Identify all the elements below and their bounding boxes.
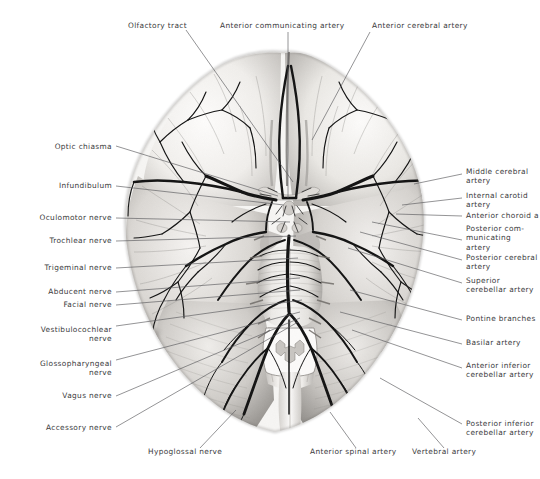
- label-line: Facial nerve: [0, 300, 112, 309]
- label-line: Abducent nerve: [0, 287, 112, 296]
- label-line: Infundibulum: [0, 181, 112, 190]
- label-anterior-cerebral-artery: Anterior cerebral artery: [372, 21, 468, 30]
- label-anterior-spinal-artery: Anterior spinal artery: [310, 447, 397, 456]
- label-line: artery: [466, 176, 528, 185]
- label-trigeminal-nerve: Trigeminal nerve: [0, 263, 112, 272]
- label-line: Oculomotor nerve: [0, 213, 112, 222]
- label-olfactory-tract: Olfactory tract: [128, 21, 187, 30]
- label-line: Anterior spinal artery: [310, 447, 397, 456]
- label-line: Basilar artery: [466, 338, 521, 347]
- label-line: Hypoglossal nerve: [148, 447, 222, 456]
- label-line: artery: [466, 262, 538, 271]
- label-infundibulum: Infundibulum: [0, 181, 112, 190]
- label-line: Anterior inferior: [466, 361, 534, 370]
- label-anterior-choroid-artery: Anterior choroid a: [466, 211, 539, 220]
- label-basilar-artery: Basilar artery: [466, 338, 521, 347]
- leader-hypoglossal-nerve: [200, 410, 236, 448]
- leader-vertebral-artery: [418, 418, 444, 448]
- label-accessory-nerve: Accessory nerve: [0, 423, 112, 432]
- label-line: Vertebral artery: [412, 447, 476, 456]
- label-line: Posterior inferior: [466, 419, 534, 428]
- brain-tissue: [110, 40, 451, 445]
- label-posterior-inferior-cerebellar-artery: Posterior inferiorcerebellar artery: [466, 419, 534, 438]
- label-line: Posterior cerebral: [466, 253, 538, 262]
- label-line: nerve: [0, 334, 112, 343]
- label-line: Optic chiasma: [0, 142, 112, 151]
- label-line: Anterior choroid a: [466, 211, 539, 220]
- label-anterior-inferior-cerebellar-artery: Anterior inferiorcerebellar artery: [466, 361, 534, 380]
- label-line: Anterior cerebral artery: [372, 21, 468, 30]
- leader-posterior-inferior-cerebellar-artery: [380, 378, 462, 424]
- label-glossopharyngeal-nerve: Glossopharyngealnerve: [0, 359, 112, 378]
- label-hypoglossal-nerve: Hypoglossal nerve: [148, 447, 222, 456]
- label-oculomotor-nerve: Oculomotor nerve: [0, 213, 112, 222]
- label-posterior-communicating-artery: Posterior com-municatingartery: [466, 224, 524, 252]
- label-line: cerebellar artery: [466, 428, 534, 437]
- label-line: Olfactory tract: [128, 21, 187, 30]
- label-vertebral-artery: Vertebral artery: [412, 447, 476, 456]
- label-optic-chiasma: Optic chiasma: [0, 142, 112, 151]
- label-vestibulocochlear-nerve: Vestibulocochlearnerve: [0, 325, 112, 344]
- label-facial-nerve: Facial nerve: [0, 300, 112, 309]
- label-vagus-nerve: Vagus nerve: [0, 391, 112, 400]
- label-line: cerebellar artery: [466, 370, 534, 379]
- label-line: Pontine branches: [466, 314, 536, 323]
- label-line: artery: [466, 243, 524, 252]
- label-line: Accessory nerve: [0, 423, 112, 432]
- label-line: Internal carotid: [466, 191, 528, 200]
- label-internal-carotid-artery: Internal carotidartery: [466, 191, 528, 210]
- label-line: Anterior communicating artery: [220, 21, 344, 30]
- label-posterior-cerebral-artery: Posterior cerebralartery: [466, 253, 538, 272]
- label-line: municating: [466, 233, 524, 242]
- label-line: Glossopharyngeal: [0, 359, 112, 368]
- label-line: Superior: [466, 276, 534, 285]
- label-line: Vestibulocochlear: [0, 325, 112, 334]
- label-trochlear-nerve: Trochlear nerve: [0, 236, 112, 245]
- leader-middle-cerebral-artery: [414, 174, 462, 184]
- label-line: Vagus nerve: [0, 391, 112, 400]
- label-superior-cerebellar-artery: Superiorcerebellar artery: [466, 276, 534, 295]
- label-line: artery: [466, 200, 528, 209]
- label-line: Trochlear nerve: [0, 236, 112, 245]
- label-line: Middle cerebral: [466, 167, 528, 176]
- label-line: Posterior com-: [466, 224, 524, 233]
- label-line: nerve: [0, 368, 112, 377]
- label-line: Trigeminal nerve: [0, 263, 112, 272]
- label-pontine-branches: Pontine branches: [466, 314, 536, 323]
- label-anterior-communicating-artery: Anterior communicating artery: [220, 21, 344, 30]
- leader-anterior-spinal-artery: [330, 412, 356, 448]
- label-abducent-nerve: Abducent nerve: [0, 287, 112, 296]
- label-line: cerebellar artery: [466, 285, 534, 294]
- label-middle-cerebral-artery: Middle cerebralartery: [466, 167, 528, 186]
